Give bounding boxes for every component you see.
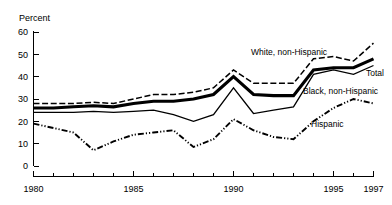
y-tick-label: 50 bbox=[18, 50, 28, 60]
x-axis-tick-labels: 19801985199019951997 bbox=[23, 184, 383, 194]
x-tick-label: 1995 bbox=[323, 184, 343, 194]
series-label-hispanic: Hispanic bbox=[311, 119, 344, 129]
y-tick-label: 10 bbox=[18, 139, 28, 149]
y-axis-title: Percent bbox=[19, 13, 51, 23]
series-label-white-non-hispanic: White, non-Hispanic bbox=[251, 47, 328, 57]
x-tick-label: 1980 bbox=[23, 184, 43, 194]
chart-container: Percent 0102030405060 198019851990199519… bbox=[0, 0, 392, 205]
y-tick-label: 40 bbox=[18, 72, 28, 82]
x-tick-label: 1990 bbox=[223, 184, 243, 194]
x-axis-ticks bbox=[34, 171, 374, 177]
series-label-total: Total bbox=[366, 68, 384, 78]
y-tick-label: 0 bbox=[23, 161, 28, 171]
series-annotations: White, non-HispanicTotalBlack, non-Hispa… bbox=[251, 47, 384, 129]
y-tick-label: 20 bbox=[18, 117, 28, 127]
y-tick-label: 60 bbox=[18, 27, 28, 37]
y-axis-ticks bbox=[34, 32, 39, 166]
x-tick-label: 1985 bbox=[123, 184, 143, 194]
y-tick-label: 30 bbox=[18, 94, 28, 104]
y-axis-tick-labels: 0102030405060 bbox=[18, 27, 28, 171]
line-chart: Percent 0102030405060 198019851990199519… bbox=[0, 0, 392, 205]
chart-series-group bbox=[34, 43, 374, 150]
series-label-black-non-hispanic: Black, non-Hispanic bbox=[303, 86, 379, 96]
series-line-total bbox=[34, 59, 374, 108]
x-tick-label: 1997 bbox=[363, 184, 383, 194]
